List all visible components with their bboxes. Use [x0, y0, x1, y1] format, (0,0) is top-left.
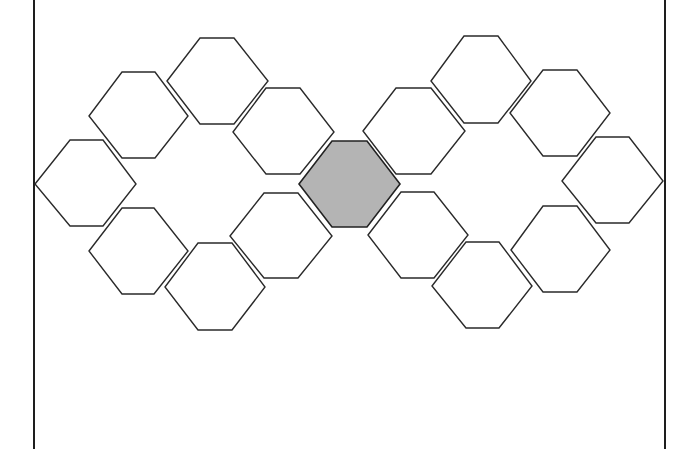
- hexagon-diagram: [0, 0, 695, 449]
